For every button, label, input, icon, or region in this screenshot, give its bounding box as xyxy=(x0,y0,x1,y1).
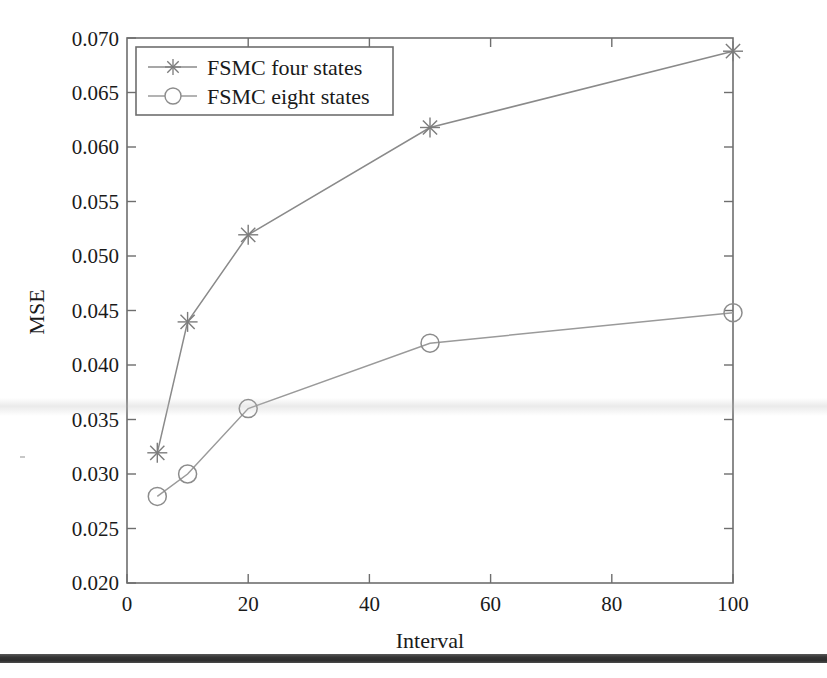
star-marker xyxy=(178,312,198,332)
y-tick-label: 0.055 xyxy=(72,190,119,214)
y-tick-label: 0.030 xyxy=(72,462,119,486)
series-fsmc-eight-states xyxy=(148,304,742,506)
y-tick-label: 0.060 xyxy=(72,135,119,159)
x-tick-labels: 0 20 40 60 80 100 xyxy=(122,592,749,616)
y-axis-label: MSE xyxy=(24,289,49,334)
y-tick-label: 0.040 xyxy=(72,353,119,377)
legend-label: FSMC eight states xyxy=(207,84,370,109)
x-tick-label: 40 xyxy=(359,592,380,616)
y-tick-label: 0.070 xyxy=(72,27,119,51)
x-tick-label: 0 xyxy=(122,592,133,616)
mse-vs-interval-line-chart: 0.020 0.025 0.030 0.035 0.040 0.045 0.05… xyxy=(0,0,827,678)
y-tick-label: 0.035 xyxy=(72,408,119,432)
star-marker xyxy=(165,59,181,75)
star-marker xyxy=(147,443,167,463)
page-edge-bar xyxy=(0,654,827,663)
legend-label: FSMC four states xyxy=(207,55,362,80)
star-marker xyxy=(723,41,743,61)
star-marker xyxy=(420,118,440,138)
x-tick-label: 20 xyxy=(238,592,259,616)
y-tick-label: 0.045 xyxy=(72,299,119,323)
star-marker xyxy=(238,225,258,245)
y-tick-label: 0.020 xyxy=(72,571,119,595)
figure-container: 0.020 0.025 0.030 0.035 0.040 0.045 0.05… xyxy=(0,0,827,678)
y-tick-label: 0.065 xyxy=(72,81,119,105)
x-tick-label: 80 xyxy=(601,592,622,616)
circle-marker xyxy=(165,88,181,104)
y-tick-labels: 0.020 0.025 0.030 0.035 0.040 0.045 0.05… xyxy=(72,27,119,595)
legend: FSMC four states FSMC eight states xyxy=(136,47,393,115)
x-axis-label: Interval xyxy=(396,628,464,653)
series-line xyxy=(157,313,733,497)
x-tick-label: 60 xyxy=(480,592,501,616)
scan-speck-artifact xyxy=(20,456,25,458)
x-tick-label: 100 xyxy=(717,592,749,616)
y-tick-label: 0.025 xyxy=(72,517,119,541)
y-tick-label: 0.050 xyxy=(72,244,119,268)
